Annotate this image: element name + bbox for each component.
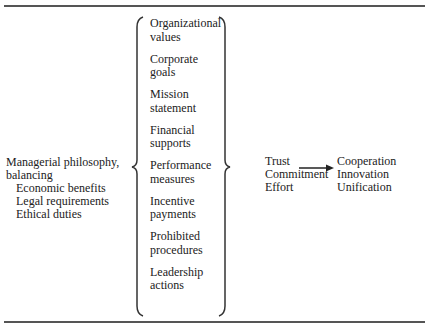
arrow-head-icon (326, 165, 334, 172)
right-brace-icon (219, 17, 230, 316)
left-brace-icon (132, 17, 143, 316)
bottom-rule (4, 321, 425, 323)
connector-overlay (0, 0, 434, 334)
